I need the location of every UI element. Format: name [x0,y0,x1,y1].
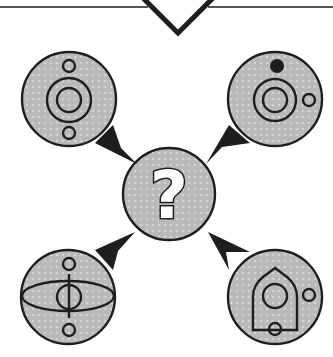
filled-dot-icon [270,59,284,73]
disc-top-right [228,52,322,146]
disc-top-left [22,52,116,146]
disc-bottom-right [228,250,322,344]
disc-bottom-left [21,250,115,344]
disc-center: ? [123,148,215,240]
diagram-canvas: ? [0,0,333,357]
question-mark-icon: ? [150,157,188,234]
top-divider-chevron [0,0,333,33]
puzzle-diagram: Which symbol belongs in the center? [0,0,333,357]
